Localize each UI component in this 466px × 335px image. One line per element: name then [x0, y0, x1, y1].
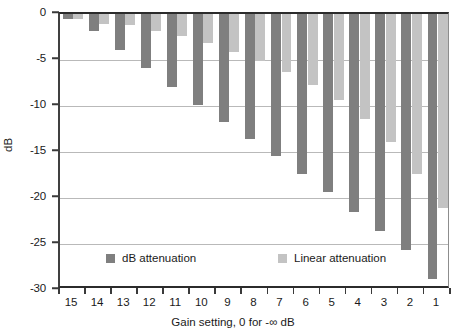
x-axis: 151413121110987654321: [58, 288, 449, 318]
bar-group: [295, 14, 321, 286]
bar-db-attenuation: [193, 14, 203, 105]
bar-group: [269, 14, 295, 286]
bar-db-attenuation: [297, 14, 307, 174]
x-tick-label: 2: [407, 296, 413, 308]
chart-legend: dB attenuationLinear attenuation: [58, 252, 449, 270]
bar-db-attenuation: [375, 14, 385, 231]
x-tick-mark: [188, 288, 190, 294]
x-tick-mark: [162, 288, 164, 294]
bar-db-attenuation: [115, 14, 125, 50]
bar-group: [138, 14, 164, 286]
bar-db-attenuation: [167, 14, 177, 87]
legend-entry: Linear attenuation: [278, 252, 386, 264]
bar-linear-attenuation: [282, 14, 292, 72]
bar-linear-attenuation: [412, 14, 422, 174]
bar-group: [216, 14, 242, 286]
bar-linear-attenuation: [334, 14, 344, 100]
bar-group: [86, 14, 112, 286]
x-tick-label: 9: [224, 296, 230, 308]
bar-group: [399, 14, 425, 286]
x-tick-label: 6: [302, 296, 308, 308]
attenuation-bar-chart: dB 0-5-10-15-20-25-30 dB attenuationLine…: [0, 0, 466, 335]
bar-group: [425, 14, 451, 286]
x-tick-mark: [214, 288, 216, 294]
x-tick-label: 14: [91, 296, 104, 308]
bar-group: [190, 14, 216, 286]
y-tick-label: -25: [30, 236, 46, 248]
x-tick-mark: [345, 288, 347, 294]
x-tick-label: 4: [355, 296, 361, 308]
x-axis-title: Gain setting, 0 for -∞ dB: [0, 316, 466, 328]
legend-swatch-icon: [106, 254, 115, 263]
bar-db-attenuation: [245, 14, 255, 139]
y-tick-label: -10: [30, 98, 46, 110]
bar-linear-attenuation: [125, 14, 135, 25]
legend-swatch-icon: [278, 254, 287, 263]
bar-group: [164, 14, 190, 286]
y-tick-label: -30: [30, 282, 46, 294]
bar-db-attenuation: [271, 14, 281, 156]
bar-linear-attenuation: [308, 14, 318, 85]
legend-label: dB attenuation: [122, 252, 196, 264]
x-tick-mark: [449, 288, 451, 294]
bar-linear-attenuation: [177, 14, 187, 36]
x-tick-mark: [371, 288, 373, 294]
bar-db-attenuation: [401, 14, 411, 250]
y-axis: 0-5-10-15-20-25-30: [0, 0, 58, 335]
x-tick-label: 1: [433, 296, 439, 308]
bar-group: [242, 14, 268, 286]
x-tick-label: 5: [328, 296, 334, 308]
bar-linear-attenuation: [99, 14, 109, 24]
bar-linear-attenuation: [255, 14, 265, 61]
bar-group: [321, 14, 347, 286]
bar-linear-attenuation: [386, 14, 396, 142]
bar-db-attenuation: [89, 14, 99, 31]
x-tick-label: 15: [65, 296, 78, 308]
bar-db-attenuation: [219, 14, 229, 122]
x-tick-label: 12: [143, 296, 156, 308]
bar-linear-attenuation: [360, 14, 370, 119]
x-tick-mark: [84, 288, 86, 294]
bar-db-attenuation: [349, 14, 359, 212]
x-tick-mark: [423, 288, 425, 294]
x-tick-mark: [267, 288, 269, 294]
x-tick-mark: [397, 288, 399, 294]
bar-group: [347, 14, 373, 286]
bar-group: [112, 14, 138, 286]
bar-linear-attenuation: [73, 14, 83, 19]
legend-entry: dB attenuation: [106, 252, 196, 264]
bar-db-attenuation: [141, 14, 151, 68]
x-tick-label: 11: [169, 296, 181, 308]
x-tick-label: 7: [276, 296, 282, 308]
y-tick-label: 0: [40, 6, 46, 18]
bar-db-attenuation: [323, 14, 333, 192]
legend-label: Linear attenuation: [294, 252, 386, 264]
bar-group: [373, 14, 399, 286]
y-tick-label: -15: [30, 144, 46, 156]
bar-db-attenuation: [63, 14, 73, 19]
plot-area: [58, 12, 449, 288]
bar-linear-attenuation: [438, 14, 448, 208]
x-tick-mark: [58, 288, 60, 294]
bar-linear-attenuation: [151, 14, 161, 31]
x-tick-mark: [293, 288, 295, 294]
x-tick-label: 10: [195, 296, 208, 308]
bars-layer: [60, 14, 448, 286]
x-tick-mark: [319, 288, 321, 294]
y-tick-label: -20: [30, 190, 46, 202]
x-tick-label: 8: [250, 296, 256, 308]
bar-db-attenuation: [428, 14, 438, 279]
bar-linear-attenuation: [203, 14, 213, 43]
bar-linear-attenuation: [229, 14, 239, 52]
y-tick-label: -5: [36, 52, 46, 64]
x-tick-mark: [110, 288, 112, 294]
x-tick-mark: [240, 288, 242, 294]
x-tick-mark: [136, 288, 138, 294]
bar-group: [60, 14, 86, 286]
x-tick-label: 13: [117, 296, 130, 308]
x-tick-label: 3: [381, 296, 387, 308]
